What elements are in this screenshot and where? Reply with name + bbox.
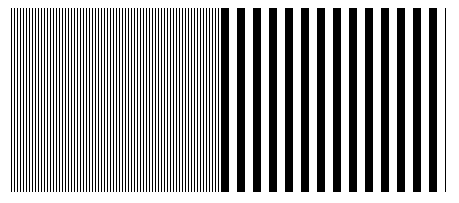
coarse-grating-panel [221, 8, 446, 192]
fine-grating-panel [11, 8, 221, 192]
